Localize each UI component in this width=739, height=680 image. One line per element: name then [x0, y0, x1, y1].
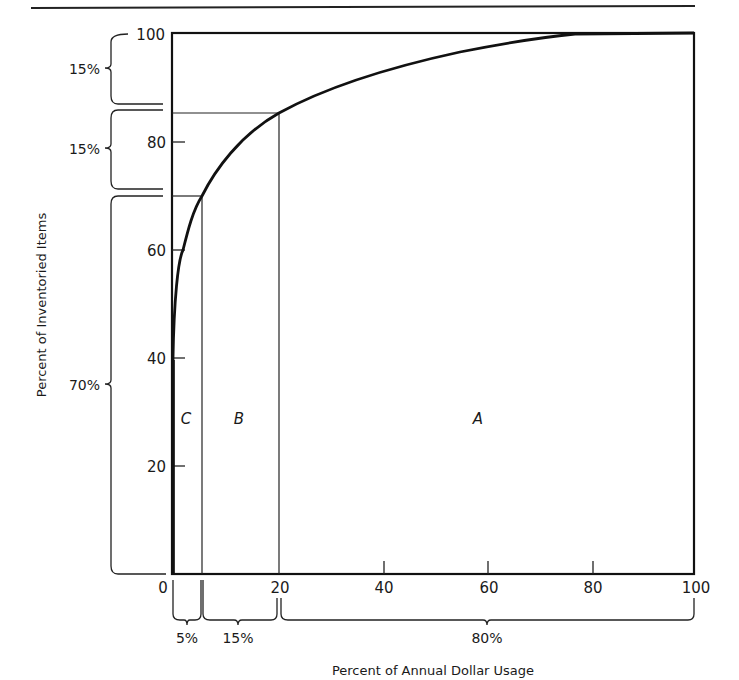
x-tick-labels: 0 20 40 60 80 100: [158, 579, 710, 597]
zone-label-b: B: [234, 410, 244, 428]
brace-x-5-20: [203, 580, 277, 625]
y-tick-label-80: 80: [147, 134, 166, 152]
y-tick-label-60: 60: [147, 242, 166, 260]
x-tick-label-20: 20: [270, 579, 289, 597]
brace-y-85-100: [105, 34, 163, 104]
y-axis-title: Percent of Inventoried Items: [34, 213, 49, 398]
abc-analysis-chart: 20 40 60 80 100 0 20 40 60 80 100 C B A …: [0, 0, 739, 680]
x-brace-label-c: 5%: [176, 630, 198, 646]
y-brace-label-top: 15%: [69, 61, 100, 77]
y-brace-label-middle: 15%: [69, 141, 100, 157]
y-tick-label-100: 100: [136, 26, 165, 44]
y-tick-labels: 20 40 60 80 100: [136, 26, 166, 476]
y-brace-labels: 15% 15% 70%: [69, 61, 100, 393]
plot-frame: [172, 33, 694, 574]
y-brace-label-bottom: 70%: [69, 377, 100, 393]
x-tick-label-60: 60: [479, 579, 498, 597]
x-brace-label-a: 80%: [471, 630, 502, 646]
zone-label-a: A: [472, 410, 483, 428]
brace-x-0-5: [173, 580, 201, 625]
x-axis-title: Percent of Annual Dollar Usage: [332, 663, 534, 678]
y-tick-label-40: 40: [147, 350, 166, 368]
top-rule: [31, 6, 695, 8]
x-tick-label-100: 100: [682, 579, 711, 597]
x-tick-label-40: 40: [374, 579, 393, 597]
x-braces: [173, 580, 694, 625]
y-tick-label-20: 20: [147, 458, 166, 476]
zone-label-c: C: [181, 410, 192, 428]
brace-x-20-100: [281, 598, 694, 625]
reference-lines: [172, 113, 279, 574]
x-tick-label-0: 0: [158, 579, 168, 597]
x-brace-labels: 5% 15% 80%: [176, 630, 503, 646]
cumulative-curve: [173, 33, 694, 574]
x-tick-label-80: 80: [583, 579, 602, 597]
x-brace-label-b: 15%: [222, 630, 253, 646]
x-ticks: [384, 561, 593, 574]
y-braces: [105, 34, 166, 574]
